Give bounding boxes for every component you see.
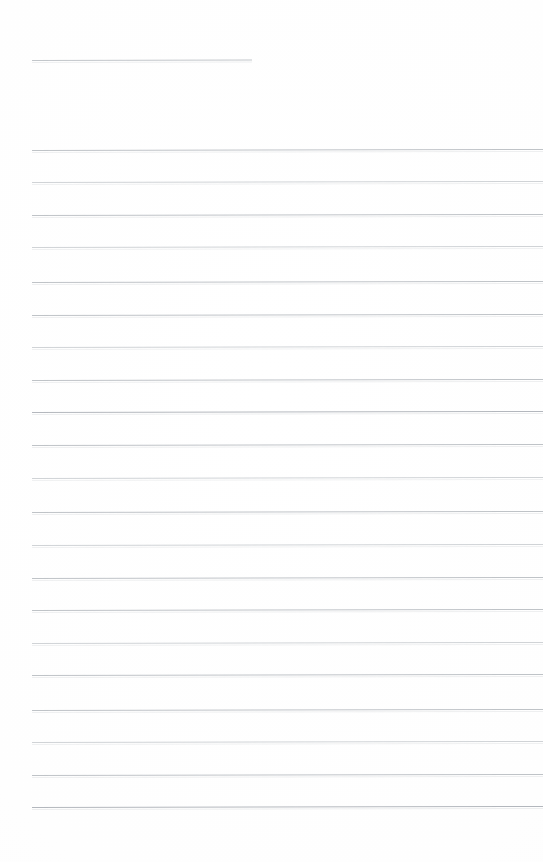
ruled-line bbox=[32, 214, 543, 216]
ruled-line bbox=[32, 379, 543, 381]
ruled-line bbox=[32, 314, 543, 316]
ruled-line bbox=[32, 477, 543, 479]
ruled-line bbox=[32, 674, 543, 676]
ruled-line bbox=[32, 709, 543, 711]
ruled-line bbox=[32, 181, 543, 183]
ruled-line bbox=[32, 444, 543, 446]
ruled-line bbox=[32, 741, 543, 743]
ruled-line bbox=[32, 346, 543, 348]
ruled-line bbox=[32, 149, 543, 151]
header-rule bbox=[32, 60, 252, 61]
scanned-page bbox=[0, 0, 543, 862]
ruled-line bbox=[32, 281, 543, 283]
ruled-line bbox=[32, 774, 543, 776]
ruled-line bbox=[32, 411, 543, 413]
ruled-line bbox=[32, 642, 543, 644]
ruled-line bbox=[32, 609, 543, 611]
paper-surface bbox=[0, 0, 543, 862]
ruled-line bbox=[32, 577, 543, 579]
ruled-line bbox=[32, 246, 543, 248]
ruled-line bbox=[32, 511, 543, 513]
ruled-line bbox=[32, 544, 543, 546]
ruled-line bbox=[32, 806, 543, 808]
